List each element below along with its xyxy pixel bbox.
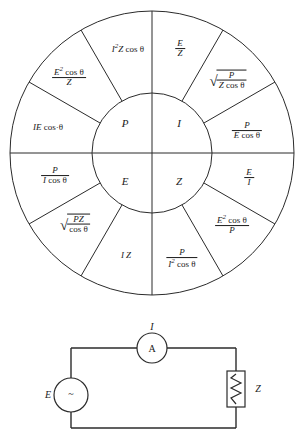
ac-source-symbol [54,378,88,412]
power-wheel-graphic [10,11,294,295]
diagram-stage: P I E Z I2Z cos θ E2 cos θ Z IE cos·θ E … [0,0,303,440]
impedance-box [227,371,245,407]
ammeter-symbol [137,333,167,363]
circuit-graphic [54,333,245,428]
wheel-and-circuit-svg [0,0,303,440]
